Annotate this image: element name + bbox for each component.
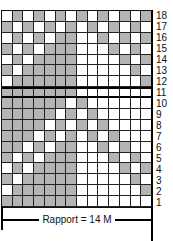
chart-cell — [66, 174, 77, 185]
chart-cell — [120, 87, 131, 98]
chart-cell — [66, 65, 77, 76]
row-number: 13 — [156, 65, 172, 76]
chart-cell — [131, 55, 142, 66]
chart-cell — [56, 87, 67, 98]
chart-cell — [98, 22, 109, 33]
chart-cell — [131, 163, 142, 174]
chart-cell — [34, 76, 45, 87]
row-number: 11 — [156, 87, 172, 98]
chart-cell — [23, 131, 34, 142]
chart-cell — [13, 98, 24, 109]
chart-cell — [77, 120, 88, 131]
chart-cell — [120, 131, 131, 142]
chart-cell — [23, 76, 34, 87]
chart-cell — [77, 87, 88, 98]
row-number: 14 — [156, 54, 172, 65]
chart-cell — [131, 153, 142, 164]
chart-cell — [34, 55, 45, 66]
chart-cell — [23, 163, 34, 174]
chart-cell — [34, 22, 45, 33]
chart-cell — [45, 196, 56, 207]
chart-cell — [98, 142, 109, 153]
chart-cell — [2, 109, 13, 120]
row-number: 16 — [156, 32, 172, 43]
chart-cell — [13, 174, 24, 185]
chart-cell — [34, 65, 45, 76]
chart-cell — [77, 131, 88, 142]
chart-cell — [2, 120, 13, 131]
chart-cell — [109, 33, 120, 44]
chart-cell — [77, 153, 88, 164]
chart-cell — [88, 44, 99, 55]
chart-cell — [13, 142, 24, 153]
row-number: 3 — [156, 175, 172, 186]
chart-cell — [56, 76, 67, 87]
chart-cell — [131, 33, 142, 44]
chart-cell — [34, 109, 45, 120]
row-numbers: 181716151413121110987654321 — [156, 10, 172, 208]
chart-cell — [88, 196, 99, 207]
chart-cell — [120, 11, 131, 22]
chart-cell — [66, 163, 77, 174]
chart-cell — [88, 65, 99, 76]
chart-cell — [98, 87, 109, 98]
chart-cell — [23, 87, 34, 98]
chart-cell — [56, 65, 67, 76]
chart-cell — [131, 142, 142, 153]
chart-cell — [45, 65, 56, 76]
chart-cell — [2, 44, 13, 55]
chart-cell — [77, 76, 88, 87]
chart-cell — [109, 76, 120, 87]
chart-cell — [88, 120, 99, 131]
row-number: 2 — [156, 186, 172, 197]
chart-cell — [120, 33, 131, 44]
chart-cell — [45, 131, 56, 142]
chart-cell — [98, 131, 109, 142]
chart-cell — [2, 185, 13, 196]
chart-cell — [66, 22, 77, 33]
chart-cell — [131, 174, 142, 185]
chart-cell — [13, 87, 24, 98]
chart-cell — [66, 87, 77, 98]
chart-cell — [109, 109, 120, 120]
chart-cell — [88, 87, 99, 98]
chart-cell — [120, 174, 131, 185]
chart-cell — [131, 44, 142, 55]
chart-cell — [109, 22, 120, 33]
chart-cell — [45, 87, 56, 98]
row-number: 4 — [156, 164, 172, 175]
chart-cell — [120, 65, 131, 76]
chart-cell — [88, 142, 99, 153]
chart-cell — [34, 44, 45, 55]
chart-cell — [66, 76, 77, 87]
chart-cell — [45, 44, 56, 55]
chart-cell — [45, 76, 56, 87]
chart-cell — [56, 44, 67, 55]
chart-cell — [13, 11, 24, 22]
knitting-chart-grid — [1, 10, 153, 208]
chart-cell — [23, 153, 34, 164]
chart-cell — [2, 174, 13, 185]
chart-cell — [34, 142, 45, 153]
chart-cell — [23, 11, 34, 22]
chart-cell — [131, 87, 142, 98]
chart-cell — [45, 153, 56, 164]
chart-cell — [13, 76, 24, 87]
chart-cell — [131, 120, 142, 131]
chart-cell — [45, 120, 56, 131]
chart-cell — [88, 11, 99, 22]
chart-cell — [131, 109, 142, 120]
chart-cell — [109, 174, 120, 185]
row-number: 12 — [156, 76, 172, 87]
row-number: 8 — [156, 120, 172, 131]
chart-cell — [109, 65, 120, 76]
chart-cell — [120, 55, 131, 66]
chart-cell — [109, 196, 120, 207]
chart-cell — [66, 153, 77, 164]
chart-cell — [109, 131, 120, 142]
chart-cell — [120, 163, 131, 174]
chart-cell — [88, 185, 99, 196]
chart-cell — [34, 153, 45, 164]
chart-cell — [56, 163, 67, 174]
chart-cell — [13, 131, 24, 142]
